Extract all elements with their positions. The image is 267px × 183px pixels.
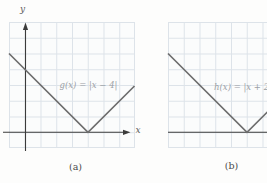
y-axis-label: y (19, 4, 26, 14)
graphs-overlay: y x g(x) = |x − 4| (a) h(x) = |x + 2| (b… (0, 0, 267, 183)
graph-a-curve (9, 54, 135, 133)
graph-b-curve (168, 54, 267, 133)
graph-b: h(x) = |x + 2| (b) (168, 54, 267, 172)
graph-a-caption: (a) (69, 161, 82, 172)
graph-b-formula-label: h(x) = |x + 2| (214, 82, 267, 93)
graph-a: y x g(x) = |x − 4| (a) (3, 4, 141, 172)
x-axis-label: x (136, 125, 141, 135)
figure: y x g(x) = |x − 4| (a) h(x) = |x + 2| (b… (0, 0, 267, 183)
x-axis-arrowhead (123, 130, 131, 135)
graph-a-formula-label: g(x) = |x − 4| (60, 80, 118, 91)
graph-b-caption: (b) (225, 160, 239, 171)
y-axis-arrowhead (23, 23, 28, 31)
